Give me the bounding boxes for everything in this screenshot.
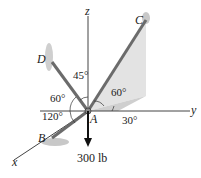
load-label: 300 lb (77, 152, 107, 164)
support-d (45, 43, 53, 71)
point-b-label: B (38, 132, 45, 144)
angle-120-label: 120° (42, 111, 63, 122)
z-axis-label: z (85, 5, 90, 17)
point-d-label: D (37, 53, 46, 65)
angle-60-right-label: 60° (111, 87, 126, 98)
angle-30-label: 30° (122, 115, 137, 126)
y-axis-label: y (191, 104, 196, 116)
point-c-label: C (135, 14, 143, 26)
arc-60-left (70, 97, 76, 111)
load-arrow-head (84, 138, 92, 147)
point-a-label: A (90, 113, 97, 125)
angle-60-left-label: 60° (50, 93, 65, 104)
angle-45-label: 45° (73, 70, 88, 81)
x-axis-label: x (12, 156, 17, 168)
